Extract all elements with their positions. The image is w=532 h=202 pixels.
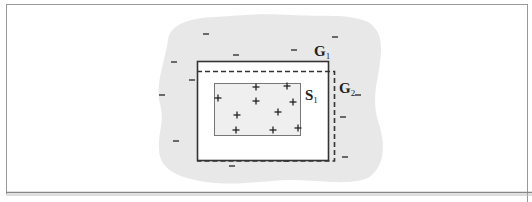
diagram-canvas [0, 0, 532, 202]
s1-rectangle [215, 84, 301, 136]
label-g2: G2 [339, 81, 355, 98]
label-g1: G1 [314, 44, 330, 61]
label-s1: S1 [305, 88, 318, 105]
